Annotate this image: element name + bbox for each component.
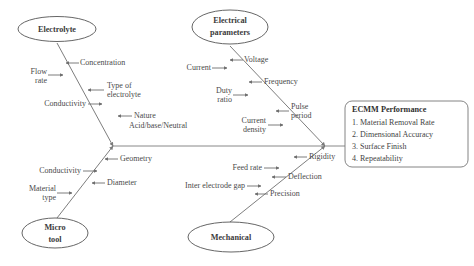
- category-label-micro-tool-line1: Micro: [44, 223, 65, 232]
- category-node-electrolyte[interactable]: Electrolyte: [18, 17, 96, 42]
- cause-label-inter-electrode-gap: Inter electrode gap: [185, 181, 245, 190]
- cause-label-nature-line2: Acid/base/Neutral: [129, 121, 188, 130]
- cause-label-conductivity-electrolyte: Conductivity: [44, 99, 86, 108]
- cause-label-conductivity-tool: Conductivity: [39, 166, 81, 175]
- effect-item-3: 3. Surface Finish: [352, 142, 406, 151]
- category-label-micro-tool-line2: tool: [48, 235, 62, 244]
- cause-label-current-density-line1: Current: [242, 116, 267, 125]
- category-label-mechanical: Mechanical: [211, 233, 252, 242]
- cause-label-frequency: Frequency: [264, 77, 298, 86]
- cause-label-geometry: Geometry: [120, 154, 152, 163]
- cause-label-precision: Precision: [270, 189, 300, 198]
- cause-label-duty-ratio-line1: Duty: [216, 86, 232, 95]
- cause-label-rigidity: Rigidity: [309, 152, 335, 161]
- cause-label-current: Current: [187, 63, 212, 72]
- cause-label-pulse-period-line1: Pulse: [291, 102, 309, 111]
- cause-label-concentration: Concentration: [80, 58, 125, 67]
- cause-label-nature-line1: Nature: [134, 111, 156, 120]
- cause-label-feed-rate: Feed rate: [232, 163, 262, 172]
- category-node-mechanical[interactable]: Mechanical: [188, 222, 274, 252]
- category-label-electrical-parameters-line1: Electrical: [213, 16, 247, 25]
- effect-item-1: 1. Material Removal Rate: [352, 118, 435, 127]
- category-label-electrical-parameters-line2: parameters: [210, 28, 250, 37]
- fishbone-svg: Concentration Flow rate Type of electrol…: [0, 0, 474, 266]
- cause-label-diameter: Diameter: [107, 178, 137, 187]
- fishbone-diagram-canvas: Concentration Flow rate Type of electrol…: [0, 0, 474, 266]
- cause-label-material-type-line2: type: [42, 193, 56, 202]
- category-node-micro-tool[interactable]: Micro tool: [22, 218, 88, 248]
- effect-item-4: 4. Repeatability: [352, 154, 403, 163]
- bone-micro-tool: [57, 146, 113, 218]
- cause-label-flow-rate-line2: rate: [35, 76, 47, 85]
- effect-title: ECMM Performance: [352, 105, 427, 114]
- cause-label-flow-rate-line1: Flow: [31, 67, 48, 76]
- cause-label-duty-ratio-line2: ratio: [217, 95, 232, 104]
- cause-label-voltage: Voltage: [244, 55, 269, 64]
- effect-item-2: 2. Dimensional Accuracy: [352, 130, 433, 139]
- cause-label-type-of-electrolyte-line1: Type of: [107, 81, 132, 90]
- cause-label-type-of-electrolyte-line2: electrolyte: [107, 90, 141, 99]
- cause-label-current-density-line2: density: [243, 125, 266, 134]
- cause-label-pulse-period-line2: period: [291, 111, 311, 120]
- cause-label-deflection: Deflection: [288, 172, 322, 181]
- effect-node[interactable]: ECMM Performance 1. Material Removal Rat…: [345, 101, 468, 167]
- category-label-electrolyte: Electrolyte: [38, 25, 76, 34]
- cause-label-material-type-line1: Material: [29, 184, 57, 193]
- category-node-electrical-parameters[interactable]: Electrical parameters: [192, 10, 268, 44]
